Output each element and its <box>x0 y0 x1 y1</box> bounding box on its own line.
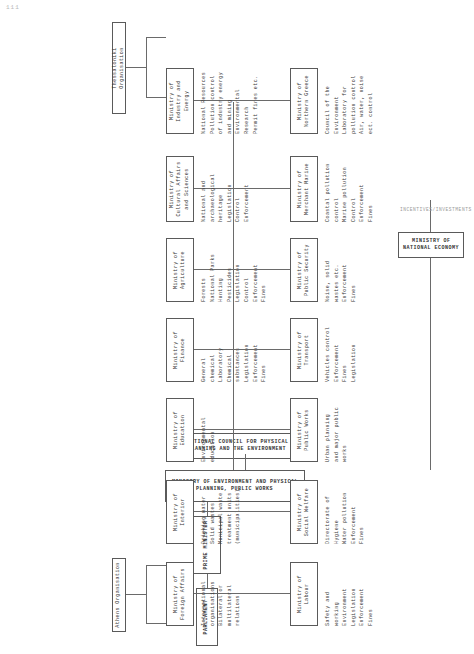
connector-ministry-merchant-marine <box>233 188 290 189</box>
box-ministry-industry-energy[interactable]: Ministry of Industry and Energy <box>166 68 194 134</box>
athens-left-drop <box>146 623 166 624</box>
box-ministry-agriculture[interactable]: Ministry of Agriculture <box>166 238 194 302</box>
list-ministry-agriculture: Forests National Parks Hunting Pesticide… <box>200 214 269 302</box>
thess-left-drop <box>146 97 166 98</box>
connector-ministry-northern-greece <box>233 100 290 101</box>
box-ministry-foreign-affairs[interactable]: Ministry of Foreign Affairs <box>166 562 194 626</box>
box-ministry-public-security[interactable]: Ministry of Public Security <box>290 238 318 302</box>
list-ministry-interior: Drinking water Solid wastes Municipal wa… <box>200 456 243 544</box>
connector-ministry-public-security <box>233 269 290 270</box>
connector-ministry-social-welfare <box>233 511 290 512</box>
list-ministry-foreign-affairs: International organisations Bilateral or… <box>200 538 243 626</box>
org-chart-canvas: PARLIAMENT PRIME MINISTER MINISTRY OF EN… <box>0 0 474 654</box>
list-ministry-education: Environmental education <box>200 374 217 462</box>
box-ministry-cultural-affairs[interactable]: Ministry of Cultural Affairs and Science… <box>166 156 194 222</box>
box-ministry-public-works[interactable]: Ministry of Public Works <box>290 398 318 462</box>
box-ministry-northern-greece[interactable]: Ministry of Northern Greece <box>290 68 318 134</box>
connector-ministry-public-works <box>233 429 290 430</box>
list-ministry-finance: General chemical Laboratory Chemical sub… <box>200 294 269 382</box>
box-ministry-transport[interactable]: Ministry of Transport <box>290 318 318 382</box>
list-ministry-northern-greece: Council of the Environment Laboratory fo… <box>324 44 376 134</box>
list-ministry-public-security: Noise, solid wastes etc. Enforcement Fin… <box>324 214 358 302</box>
list-ministry-cultural-affairs: National and archaeological heritage Leg… <box>200 132 252 222</box>
list-ministry-social-welfare: Directorate of Hygiene Water pollution E… <box>324 456 367 544</box>
thess-right-drop <box>146 37 166 38</box>
label-incentives-investments: INCENTIVES/INVESTMENTS <box>400 206 472 222</box>
list-ministry-merchant-marine: Coastal pollution control Marine polluti… <box>324 132 376 222</box>
athens-stem <box>126 594 146 595</box>
connector-ministry-transport <box>233 349 290 350</box>
council-link <box>245 454 246 470</box>
box-ministry-social-welfare[interactable]: Ministry of Social Welfare <box>290 480 318 544</box>
athens-right-drop <box>146 565 166 566</box>
athens-branch <box>146 566 147 624</box>
box-ministry-national-economy[interactable]: MINISTRY OF NATIONAL ECONOMY <box>398 232 464 258</box>
box-athens-organisation[interactable]: Athens Organisation <box>112 558 126 632</box>
box-ministry-interior[interactable]: Ministry of Interior <box>166 480 194 544</box>
chart-page: 111 PARLIAMENT PRIME MINISTER MINISTRY O… <box>0 0 474 654</box>
box-ministry-education[interactable]: Ministry of Education <box>166 398 194 462</box>
connector-ministry-labour <box>233 593 290 594</box>
thess-stem <box>126 67 146 68</box>
list-ministry-industry-energy: National Resources Pollution control of … <box>200 44 260 134</box>
list-ministry-transport: Vehicles control Enforcement Fines Legis… <box>324 294 358 382</box>
box-thessaloniki-organisation[interactable]: Thessaloniki Organisation <box>112 22 126 114</box>
list-ministry-public-works: Urban planning and major public works <box>324 374 350 462</box>
list-ministry-labour: Safety and working Environment Legislati… <box>324 538 376 626</box>
box-ministry-labour[interactable]: Ministry of Labour <box>290 562 318 626</box>
box-ministry-merchant-marine[interactable]: Ministry of Merchant Marine <box>290 156 318 222</box>
box-ministry-finance[interactable]: Ministry of Finance <box>166 318 194 382</box>
thess-branch <box>146 38 147 98</box>
